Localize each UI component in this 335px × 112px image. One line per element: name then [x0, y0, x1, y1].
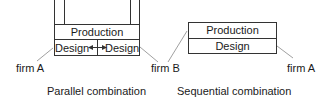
parallel-caption: Parallel combination [47, 86, 146, 97]
sequential-firm-a-label: firm A [287, 63, 315, 74]
parallel-design-right-cell: Design [105, 43, 139, 54]
parallel-production-cell: Production [54, 27, 140, 38]
parallel-firm-b-label: firm B [151, 63, 180, 74]
parallel-design-left-cell: Design [55, 43, 88, 54]
parallel-firm-a-label: firm A [16, 63, 44, 74]
sequential-production-cell: Production [188, 25, 277, 36]
sequential-caption: Sequential combination [177, 86, 291, 97]
sequential-design-cell: Design [188, 41, 277, 52]
